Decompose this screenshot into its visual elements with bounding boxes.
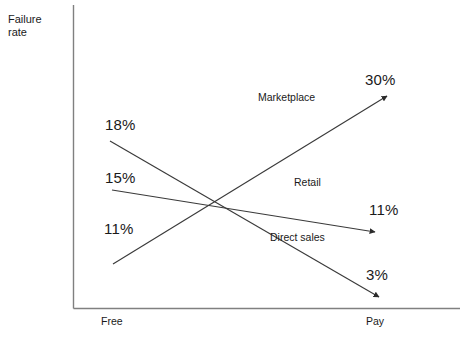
x-axis-tick-label-pay: Pay bbox=[366, 315, 384, 327]
x-axis-tick-label-free: Free bbox=[101, 315, 123, 327]
value-label-direct-sales-end: 3% bbox=[366, 266, 388, 283]
value-label-direct-sales-start: 18% bbox=[105, 116, 136, 133]
value-label-marketplace-end: 30% bbox=[365, 71, 396, 88]
y-axis-title-line1: Failure bbox=[8, 13, 42, 25]
y-axis-title-line2: rate bbox=[8, 26, 27, 38]
series-line-marketplace bbox=[113, 96, 387, 264]
series-label-marketplace: Marketplace bbox=[258, 91, 315, 103]
series-line-retail bbox=[112, 190, 375, 232]
chart-container: Failurerate 18% 15% 11% 30% 11% 3% Marke… bbox=[0, 0, 461, 341]
series-line-direct-sales bbox=[110, 141, 379, 297]
value-label-retail-end: 11% bbox=[369, 201, 399, 218]
series-label-direct-sales: Direct sales bbox=[270, 231, 325, 243]
series-label-retail: Retail bbox=[294, 176, 321, 188]
chart-canvas bbox=[0, 0, 461, 341]
value-label-retail-start: 15% bbox=[105, 169, 136, 186]
y-axis-title: Failurerate bbox=[8, 13, 62, 38]
value-label-marketplace-start: 11% bbox=[104, 220, 134, 237]
